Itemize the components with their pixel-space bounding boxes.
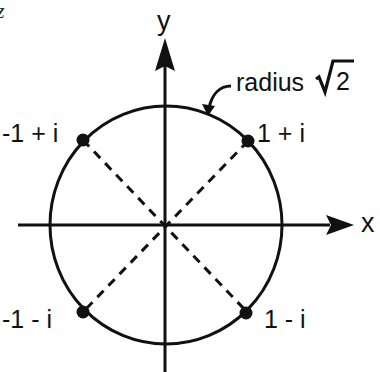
y-axis-label: y	[157, 8, 171, 35]
radius-label: radius	[236, 70, 304, 95]
x-axis-arrowhead-icon	[326, 215, 354, 235]
point-label-neg1-plus-i: -1 + i	[2, 121, 58, 146]
point-label-1-plus-i: 1 + i	[257, 121, 305, 146]
radius-pointer-arrowhead-icon	[202, 104, 215, 116]
radius-sqrt-content: 2	[336, 69, 350, 94]
point-label-1-minus-i: 1 - i	[264, 307, 306, 332]
point-neg1-plus-i	[77, 134, 90, 147]
point-1-plus-i	[242, 135, 255, 148]
point-label-neg1-minus-i: -1 - i	[2, 307, 52, 332]
point-neg1-minus-i	[77, 306, 90, 319]
x-axis-label: x	[361, 210, 375, 237]
point-1-minus-i	[240, 307, 253, 320]
radius-pointer-arrow	[209, 86, 231, 108]
complex-plane-diagram	[0, 0, 380, 372]
